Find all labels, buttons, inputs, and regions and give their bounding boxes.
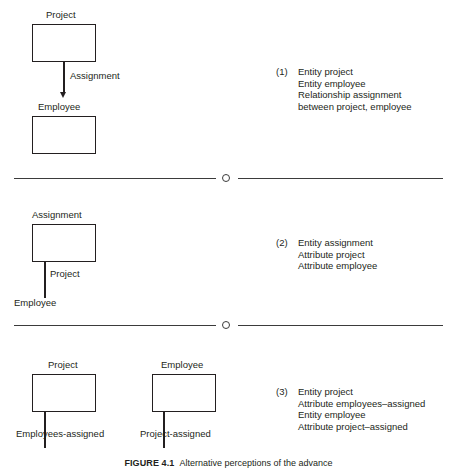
entity-box-project-p3 xyxy=(32,374,96,412)
entity-box-assignment-p2 xyxy=(32,224,96,262)
figure-page: Project Assignment Employee (1) Entity p… xyxy=(0,0,457,470)
panel-1-number: (1) xyxy=(276,66,298,112)
attribute-line-p2 xyxy=(44,262,46,298)
panel-1-description: (1) Entity project Entity employee Relat… xyxy=(276,66,412,112)
panel-2-description: (2) Entity assignment Attribute project … xyxy=(276,237,377,272)
relationship-line-assignment xyxy=(63,62,65,94)
panel-3-description-text: Entity project Attribute employees–assig… xyxy=(298,386,425,432)
divider-circle-icon xyxy=(222,321,230,329)
divider-rule-left xyxy=(14,325,216,326)
entity-box-employee-p3 xyxy=(152,374,216,412)
entity-box-project-p1 xyxy=(32,24,96,62)
divider-rule-left xyxy=(14,178,216,179)
edge-label-project-assigned-p3: Project-assigned xyxy=(140,428,211,439)
figure-caption-label: FIGURE 4.1 xyxy=(124,458,174,468)
divider-circle-icon xyxy=(222,174,230,182)
edge-label-assignment-p1: Assignment xyxy=(70,70,120,81)
panel-2-description-text: Entity assignment Attribute project Attr… xyxy=(298,237,377,272)
figure-caption-text: Alternative perceptions of the advance xyxy=(179,458,332,468)
arrowhead-icon xyxy=(60,92,66,98)
edge-label-project-p2: Project xyxy=(50,268,80,279)
box-label-project-p1: Project xyxy=(46,9,76,20)
box-label-assignment-p2: Assignment xyxy=(32,209,82,220)
figure-caption: FIGURE 4.1 Alternative perceptions of th… xyxy=(0,458,457,469)
panel-1-description-text: Entity project Entity employee Relations… xyxy=(298,66,412,112)
panel-3-description: (3) Entity project Attribute employees–a… xyxy=(276,386,425,432)
divider-rule-right xyxy=(238,325,443,326)
divider-rule-right xyxy=(238,178,443,179)
box-label-employee-p1: Employee xyxy=(38,101,80,112)
edge-label-employees-assigned-p3: Employees-assigned xyxy=(16,428,104,439)
edge-label-employee-p2: Employee xyxy=(14,297,56,308)
panel-3-number: (3) xyxy=(276,386,298,432)
box-label-project-p3: Project xyxy=(48,359,78,370)
section-divider-2 xyxy=(0,319,457,333)
panel-2-number: (2) xyxy=(276,237,298,272)
box-label-employee-p3: Employee xyxy=(161,359,203,370)
entity-box-employee-p1 xyxy=(32,116,96,154)
section-divider-1 xyxy=(0,172,457,186)
